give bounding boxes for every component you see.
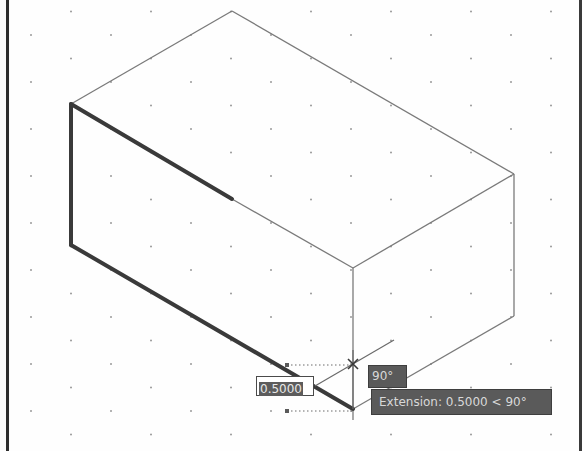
dynamic-input-field[interactable]: 0.5000 xyxy=(256,376,314,396)
edge-top-front-right xyxy=(353,174,514,268)
angle-tooltip: 90° xyxy=(368,365,407,388)
edge-thick-top xyxy=(71,104,232,199)
viewport-border-left xyxy=(6,0,9,451)
highlighted-edges xyxy=(71,104,353,409)
drawing-viewport[interactable]: 0.5000 90° Extension: 0.5000 < 90° xyxy=(0,0,583,451)
extension-tooltip: Extension: 0.5000 < 90° xyxy=(371,389,552,415)
edge-thick-left-bottom xyxy=(71,104,353,409)
edge-top-front-left xyxy=(232,199,353,268)
edge-top-left-back xyxy=(71,11,232,104)
edge-top-right-back xyxy=(232,11,514,174)
dynamic-input-value[interactable]: 0.5000 xyxy=(259,382,303,396)
viewport-border-right xyxy=(579,0,582,451)
box-edges xyxy=(71,11,514,420)
